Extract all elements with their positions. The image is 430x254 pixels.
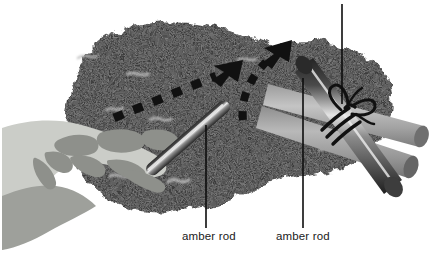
figure-illustration — [0, 0, 430, 254]
fur-squiggle — [106, 108, 123, 110]
fur-squiggle — [168, 180, 189, 182]
label-amber-rod-left: amber rod — [182, 231, 236, 243]
hand-shadow — [2, 185, 96, 250]
label-amber-rod-right: amber rod — [276, 231, 330, 243]
amber-rod-figure: amber rod amber rod — [0, 0, 430, 254]
